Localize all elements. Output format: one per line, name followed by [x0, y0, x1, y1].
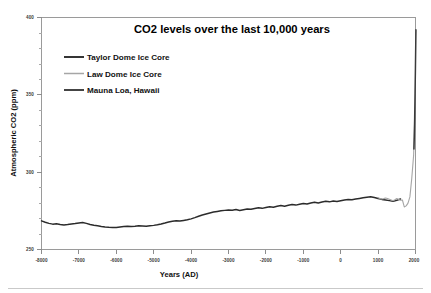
x-axis-title: Years (AD): [160, 270, 199, 279]
y-tick-label-250: 250: [26, 247, 34, 252]
legend-label-0: Taylor Dome Ice Core: [87, 53, 170, 62]
co2-line-chart: 400 350 300 250 -8000 -7000 -6000 -5000 …: [0, 0, 431, 293]
x-tick-label--8000: -8000: [35, 258, 48, 263]
y-tick-label-400: 400: [26, 15, 34, 20]
x-tick-label--3000: -3000: [222, 258, 235, 263]
x-tick-label--1000: -1000: [297, 258, 310, 263]
x-tick-label--7000: -7000: [73, 258, 86, 263]
x-tick-label-0: 0: [339, 258, 342, 263]
x-tick-label--6000: -6000: [110, 258, 123, 263]
y-tick-label-300: 300: [26, 170, 34, 175]
y-tick-label-350: 350: [26, 92, 34, 97]
y-axis-title: Atmospheric CO2 (ppm): [9, 89, 18, 177]
x-tick-label-2000: 2000: [409, 258, 420, 263]
legend-label-2: Mauna Loa, Hawaii: [87, 86, 159, 95]
legend-label-1: Law Dome Ice Core: [87, 70, 162, 79]
x-tick-label--2000: -2000: [260, 258, 273, 263]
x-tick-label--4000: -4000: [185, 258, 198, 263]
x-tick-label--5000: -5000: [148, 258, 161, 263]
chart-figure: 400 350 300 250 -8000 -7000 -6000 -5000 …: [0, 0, 431, 293]
chart-title: CO2 levels over the last 10,000 years: [134, 23, 330, 35]
x-tick-label-1000: 1000: [373, 258, 384, 263]
